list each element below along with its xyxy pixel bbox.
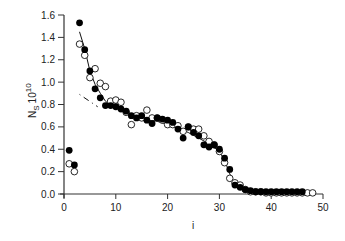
- filled-circle-series: [66, 19, 306, 195]
- x-tick-label: 50: [317, 202, 329, 213]
- ylabel-sub: S: [32, 105, 41, 110]
- filled-data-point: [76, 19, 83, 26]
- filled-data-point: [216, 146, 223, 153]
- fit-curve: [80, 32, 313, 193]
- filled-data-point: [299, 188, 306, 195]
- y-tick-label: 0.4: [41, 144, 55, 155]
- fit-line: [80, 32, 313, 193]
- open-data-point: [76, 41, 83, 48]
- filled-data-point: [81, 46, 88, 53]
- open-data-point: [102, 83, 109, 90]
- filled-data-point: [195, 132, 202, 139]
- dashed-line: [80, 94, 98, 106]
- filled-data-point: [175, 126, 182, 133]
- y-tick-label: 0.6: [41, 121, 55, 132]
- open-circle-series: [66, 41, 316, 196]
- x-tick-label: 0: [61, 202, 67, 213]
- filled-data-point: [211, 141, 218, 148]
- y-tick-label: 1.0: [41, 77, 55, 88]
- filled-data-point: [71, 162, 78, 169]
- x-tick-label: 30: [214, 202, 226, 213]
- open-data-point: [71, 168, 78, 175]
- ylabel-sup: 10: [24, 83, 33, 92]
- filled-data-point: [149, 120, 156, 127]
- open-data-point: [128, 121, 135, 128]
- filled-data-point: [180, 135, 187, 142]
- y-tick-label: 0.2: [41, 166, 55, 177]
- filled-data-point: [185, 123, 192, 130]
- axis-ticks: 010203040500.00.20.40.60.81.01.21.41.6: [41, 10, 329, 214]
- axes: [60, 15, 323, 198]
- svg-text:NS1010: NS1010: [24, 83, 41, 118]
- ylabel-main: N: [27, 111, 38, 118]
- y-tick-label: 0.8: [41, 99, 55, 110]
- chart: 010203040500.00.20.40.60.81.01.21.41.6 i…: [0, 0, 345, 241]
- filled-data-point: [97, 94, 104, 101]
- filled-data-point: [92, 85, 99, 92]
- x-axis-label: i: [192, 220, 194, 231]
- x-tick-label: 20: [162, 202, 174, 213]
- filled-data-point: [226, 166, 233, 173]
- y-tick-label: 0.0: [41, 189, 55, 200]
- open-data-point: [87, 74, 94, 81]
- open-data-point: [118, 99, 125, 106]
- filled-data-point: [138, 112, 145, 119]
- open-data-point: [309, 190, 316, 197]
- ylabel-base: 10: [27, 92, 38, 104]
- filled-data-point: [66, 147, 73, 154]
- y-tick-label: 1.2: [41, 54, 55, 65]
- y-tick-label: 1.6: [41, 10, 55, 21]
- filled-data-point: [87, 68, 94, 75]
- x-tick-label: 40: [266, 202, 278, 213]
- filled-data-point: [221, 155, 228, 162]
- y-axis-label: NS1010: [24, 83, 41, 118]
- y-tick-label: 1.4: [41, 32, 55, 43]
- x-tick-label: 10: [110, 202, 122, 213]
- filled-data-point: [169, 119, 176, 126]
- filled-data-point: [123, 108, 130, 115]
- open-data-point: [144, 107, 151, 114]
